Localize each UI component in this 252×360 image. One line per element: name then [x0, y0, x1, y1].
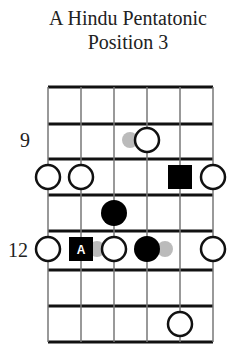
note-open — [69, 165, 93, 189]
fretboard-diagram: 9 12 A — [0, 0, 252, 360]
fret-label-9: 9 — [20, 129, 30, 151]
note-square — [168, 165, 192, 189]
note-open — [36, 165, 60, 189]
note-open — [135, 128, 159, 152]
note-open — [201, 237, 225, 261]
note-open — [201, 165, 225, 189]
note-open — [102, 237, 126, 261]
root-note-label: A — [77, 243, 86, 257]
note-open — [168, 312, 192, 336]
note-filled — [101, 200, 127, 226]
fret-label-12: 12 — [8, 239, 28, 261]
note-filled — [134, 236, 160, 262]
note-open — [36, 237, 60, 261]
fret-lines — [48, 87, 213, 342]
